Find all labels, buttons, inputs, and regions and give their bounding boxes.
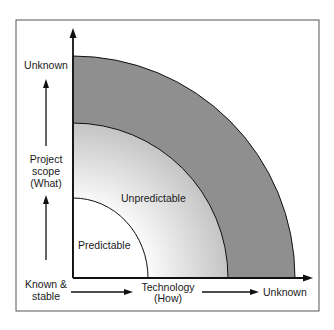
- y-axis-label-line2: scope: [32, 165, 60, 177]
- origin-label-line1: Known &: [25, 278, 67, 290]
- y-axis-label-line3: (What): [30, 177, 62, 189]
- diagram-canvas: Unknown Project scope (What) Known & sta…: [0, 0, 334, 330]
- y-axis-top-label: Unknown: [24, 59, 68, 71]
- unpredictable-label: Unpredictable: [121, 192, 186, 204]
- x-axis-label-line2: (How): [154, 292, 182, 304]
- y-axis-label-line1: Project: [30, 153, 63, 165]
- x-axis-right-label: Unknown: [263, 286, 307, 298]
- origin-label-line2: stable: [32, 290, 60, 302]
- predictable-label: Predictable: [78, 239, 131, 251]
